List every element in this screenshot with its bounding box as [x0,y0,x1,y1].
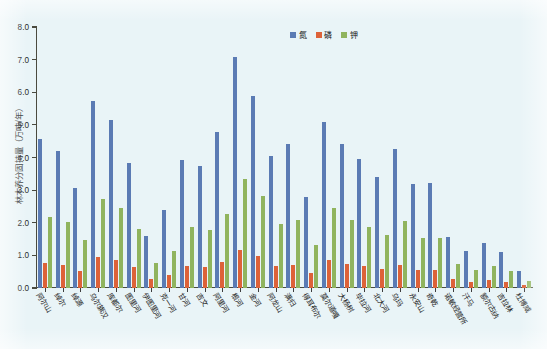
bar-钾 [154,263,158,288]
x-category-label: 奇乾 [425,290,442,308]
x-axis-category-labels: 阿尔山绰尔绰源乌尔旗汉库都尔图里河伊图里河克一河甘河吉文阿里河根河金河阿龙山满归… [36,290,533,349]
bar-磷 [504,282,508,288]
bar-氮 [464,251,468,288]
bar-钾 [492,266,496,288]
bar-group [304,27,318,288]
bar-group [428,27,442,288]
y-tick-label: 6.0 [18,88,29,97]
bar-氮 [198,166,202,288]
bar-磷 [114,260,118,288]
bar-磷 [291,265,295,288]
x-category-label: 根河 [230,290,247,308]
bar-group [91,27,105,288]
bar-钾 [421,238,425,288]
legend-item-氮: 氮 [290,29,307,40]
bar-group [375,27,389,288]
bar-氮 [482,243,486,288]
x-category-label: 图里河 [123,290,143,314]
bar-磷 [469,282,473,288]
y-tick-label: 8.0 [18,23,29,32]
y-tick-label: 2.0 [18,218,29,227]
bar-group [499,27,513,288]
bar-氮 [375,177,379,288]
bar-磷 [487,280,491,288]
bar-磷 [167,275,171,288]
bar-钾 [225,214,229,288]
x-category-label: 绰源 [70,290,87,308]
bar-钾 [350,220,354,289]
bar-磷 [362,266,366,288]
bar-group [286,27,300,288]
bar-钾 [172,251,176,288]
bar-磷 [185,266,189,288]
bar-氮 [269,156,273,288]
bar-group [73,27,87,288]
x-category-label: 永安山 [407,290,427,314]
bar-氮 [499,252,503,288]
bar-group [56,27,70,288]
y-tick-label: 5.0 [18,120,29,129]
bar-氮 [73,188,77,288]
x-category-label: 汗马 [461,290,478,308]
bar-磷 [78,271,82,288]
legend-label: 氮 [299,29,307,40]
x-category-label: 阿尔山 [35,290,55,314]
bar-氮 [162,210,166,288]
bar-钾 [208,230,212,288]
bar-氮 [357,159,361,288]
bar-钾 [296,220,300,289]
bar-钾 [403,221,407,288]
x-category-label: 吉文 [194,290,211,308]
bar-氮 [127,163,131,288]
x-category-label: 满归 [283,290,300,308]
bar-group [251,27,265,288]
bar-钾 [119,208,123,288]
bar-group [269,27,283,288]
bar-氮 [251,96,255,288]
bar-氮 [215,132,219,288]
bar-钾 [456,264,460,288]
bar-磷 [132,267,136,288]
bar-group [340,27,354,288]
x-category-label: 阿龙山 [265,290,285,314]
bar-group [322,27,336,288]
bar-磷 [96,257,100,288]
bar-group [109,27,123,288]
bar-group [38,27,52,288]
bar-钾 [438,238,442,288]
bar-氮 [180,160,184,288]
bar-氮 [428,183,432,288]
legend-swatch-icon [316,32,322,38]
x-category-label: 北大河 [372,290,392,314]
bar-磷 [522,285,526,288]
bar-氮 [340,144,344,288]
bar-氮 [411,184,415,288]
bar-磷 [203,267,207,288]
y-tick-label: 0.0 [18,284,29,293]
bar-group [162,27,176,288]
chart-figure: 林木养分固持量（万吨/年） 氮磷钾 0.01.02.03.04.05.06.07… [0,0,547,349]
chart-legend: 氮磷钾 [290,29,358,40]
x-category-label: 绰尔 [52,290,69,308]
bar-钾 [332,208,336,288]
bar-钾 [190,227,194,288]
bar-group [411,27,425,288]
y-tick-label: 4.0 [18,153,29,162]
legend-item-磷: 磷 [316,29,333,40]
legend-swatch-icon [341,32,347,38]
legend-swatch-icon [290,32,296,38]
bar-group [233,27,247,288]
legend-item-钾: 钾 [341,29,358,40]
bar-磷 [416,270,420,288]
bar-group [144,27,158,288]
bar-group [482,27,496,288]
x-category-label: 毕拉河 [354,290,374,314]
bar-氮 [56,151,60,288]
bar-钾 [101,199,105,288]
bar-磷 [380,269,384,288]
bar-氮 [109,120,113,288]
bar-磷 [61,265,65,288]
bar-氮 [233,57,237,288]
bar-磷 [149,279,153,288]
bar-磷 [398,265,402,288]
